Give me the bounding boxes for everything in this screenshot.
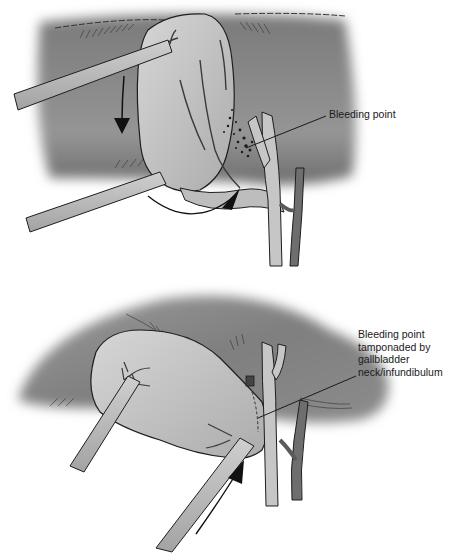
- label-bleeding-point-tamponaded: Bleeding point tamponaded by gallbladder…: [358, 328, 450, 378]
- cystic-stump: [246, 376, 254, 386]
- grasper-lower-bottom: [156, 438, 254, 552]
- label-bleeding-point: Bleeding point: [329, 108, 396, 121]
- grasper-lower-top: [26, 172, 166, 232]
- bottom-panel: [18, 296, 388, 552]
- top-panel: [14, 13, 356, 266]
- surgical-illustration: [0, 0, 450, 556]
